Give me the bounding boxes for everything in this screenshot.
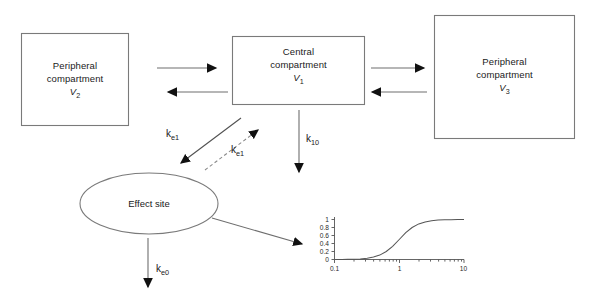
box-peripheral-3-text: Peripheral compartment V3 xyxy=(435,55,574,98)
chart-xtick-1: 1 xyxy=(389,265,410,272)
chart-xtick-10: 10 xyxy=(453,265,474,272)
chart-x-ticks xyxy=(335,260,465,264)
chart-ytick-0-8: 0.8 xyxy=(308,224,329,231)
diagram-canvas: Peripheral compartment V2 Central compar… xyxy=(0,0,596,304)
chart-ytick-0-6: 0.6 xyxy=(308,232,329,239)
chart-ytick-0: 0 xyxy=(308,256,329,263)
rate-label-k10: k10 xyxy=(306,133,319,147)
box-central-1-text: Central compartment V1 xyxy=(233,45,364,88)
central-1-line1: Central xyxy=(233,45,364,58)
box-peripheral-2-text: Peripheral compartment V2 xyxy=(21,59,129,102)
central-1-volume: V1 xyxy=(233,71,364,88)
chart-ytick-0-2: 0.2 xyxy=(308,248,329,255)
chart-xtick-0-1: 0.1 xyxy=(324,265,345,272)
rate-label-ke0: ke0 xyxy=(156,263,169,277)
peripheral-2-volume: V2 xyxy=(21,85,129,102)
chart-ytick-0-4: 0.4 xyxy=(308,240,329,247)
effect-site-label: Effect site xyxy=(80,198,218,209)
rate-label-ke1-dashed: ke1 xyxy=(231,144,244,158)
peripheral-3-line2: compartment xyxy=(435,68,574,81)
peripheral-2-line2: compartment xyxy=(21,72,129,85)
peripheral-3-line1: Peripheral xyxy=(435,55,574,68)
peripheral-2-line1: Peripheral xyxy=(21,59,129,72)
chart-ytick-1: 1 xyxy=(308,216,329,223)
chart-sigmoid-curve xyxy=(335,220,465,260)
peripheral-3-volume: V3 xyxy=(435,81,574,98)
central-1-line2: compartment xyxy=(233,58,364,71)
rate-label-ke1-solid: ke1 xyxy=(166,128,179,142)
arrow-effect-to-chart xyxy=(212,218,302,244)
